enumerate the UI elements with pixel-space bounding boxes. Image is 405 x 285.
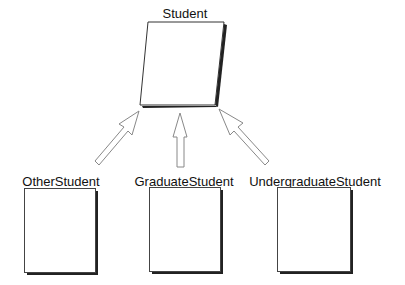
node-undergraduatestudent[interactable]: UndergraduateStudent [249,174,381,274]
node-label-student: Student [163,6,208,21]
node-graduatestudent[interactable]: GraduateStudent [134,174,233,274]
node-label-otherstudent: OtherStudent [22,174,100,189]
arrow-undergraduatestudent-to-student [219,109,269,165]
undergraduatestudent-box [278,188,351,272]
otherstudent-box [25,189,96,273]
arrow-graduatestudent-to-student [173,113,187,167]
graduatestudent-box [150,188,221,272]
student-shadow-bottom [142,106,218,108]
node-label-graduatestudent: GraduateStudent [134,174,233,189]
node-student[interactable]: Student [140,6,227,108]
node-otherstudent[interactable]: OtherStudent [22,174,100,275]
student-box [140,22,224,105]
node-label-undergraduatestudent: UndergraduateStudent [249,174,381,189]
arrow-otherstudent-to-student [95,111,139,165]
inheritance-diagram: Student OtherStudent GraduateStudent Und… [0,0,405,285]
